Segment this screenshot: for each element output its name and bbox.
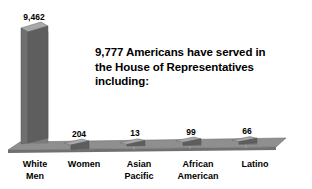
category-line: Women bbox=[68, 159, 100, 171]
headline-line-3: including: bbox=[95, 74, 303, 89]
value-label-african-american: 99 bbox=[186, 127, 195, 137]
value-label-white-men: 9,462 bbox=[23, 12, 44, 22]
headline-line-2: the House of Representatives bbox=[95, 60, 303, 75]
value-label-latino: 66 bbox=[242, 126, 251, 136]
category-line: African bbox=[177, 159, 218, 171]
value-label-asian-pacific: 13 bbox=[130, 128, 139, 138]
category-line: Men bbox=[23, 171, 48, 183]
category-line: Latino bbox=[242, 159, 269, 171]
category-label-asian-pacific: Asian Pacific bbox=[124, 159, 153, 182]
category-line: American bbox=[177, 171, 218, 183]
value-label-women: 204 bbox=[72, 129, 86, 139]
chart-headline: 9,777 Americans have served in the House… bbox=[95, 45, 303, 89]
category-line: White bbox=[23, 159, 48, 171]
headline-line-1: 9,777 Americans have served in bbox=[95, 45, 303, 60]
category-line: Pacific bbox=[124, 171, 153, 183]
category-label-african-american: African American bbox=[177, 159, 218, 182]
category-label-white-men: White Men bbox=[23, 159, 48, 182]
category-line: Asian bbox=[124, 159, 153, 171]
category-label-women: Women bbox=[68, 159, 100, 171]
chart-container: 9,462 204 13 99 66 White Men Women Asian… bbox=[0, 0, 312, 189]
bar-white-men bbox=[21, 22, 48, 144]
category-label-latino: Latino bbox=[242, 159, 269, 171]
